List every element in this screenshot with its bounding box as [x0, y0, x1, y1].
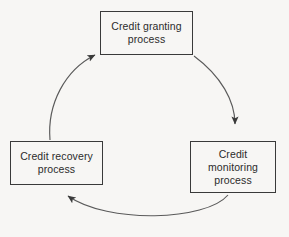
arrow-recovery-to-granting: [50, 55, 95, 140]
process-node-credit-recovery-label: Credit recoveryprocess: [17, 150, 96, 176]
process-node-credit-granting-label: Credit grantingprocess: [108, 20, 184, 46]
process-node-credit-granting[interactable]: Credit grantingprocess: [100, 11, 193, 55]
process-node-credit-recovery[interactable]: Credit recoveryprocess: [10, 141, 103, 185]
diagram-canvas: Credit grantingprocess Creditmonitoringp…: [0, 0, 289, 237]
arrow-granting-to-monitoring: [194, 56, 235, 124]
arrow-monitoring-to-recovery: [68, 195, 228, 216]
process-node-credit-monitoring[interactable]: Creditmonitoringprocess: [190, 141, 276, 193]
process-node-credit-monitoring-label: Creditmonitoringprocess: [205, 148, 261, 187]
